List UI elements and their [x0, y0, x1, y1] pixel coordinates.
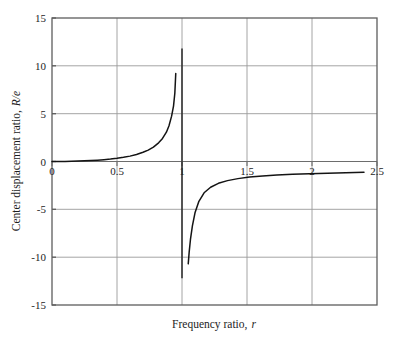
xtick-label-2p5: 2.5: [370, 165, 384, 177]
ytick-label-0: 0: [41, 156, 47, 168]
x-axis-title: Frequency ratio,r: [172, 318, 256, 331]
figure-container: 15 10 5 0 -5 -10 -15 0 0.5 1 1.5 2 2.5 F…: [0, 0, 398, 341]
xtick-label-0: 0: [49, 165, 55, 177]
xtick-label-0p5: 0.5: [110, 165, 124, 177]
x-axis-title-symbol: r: [251, 318, 256, 330]
xtick-label-2: 2: [309, 165, 315, 177]
x-axis-title-text: Frequency ratio,: [172, 318, 247, 331]
ytick-label-5: 5: [41, 108, 47, 120]
ytick-label-10: 10: [35, 60, 47, 72]
ytick-label-minus5: -5: [37, 203, 47, 215]
xtick-label-1p5: 1.5: [240, 165, 254, 177]
ytick-label-15: 15: [35, 12, 47, 24]
ytick-label-minus10: -10: [31, 251, 46, 263]
chart-svg: 15 10 5 0 -5 -10 -15 0 0.5 1 1.5 2 2.5 F…: [0, 0, 398, 341]
chart-background: [0, 0, 398, 341]
ytick-label-minus15: -15: [31, 299, 46, 311]
y-axis-title-text: Center displacement ratio,: [10, 110, 23, 231]
y-axis-title-symbol: R/e: [10, 91, 22, 107]
y-axis-title: Center displacement ratio,R/e: [10, 91, 23, 231]
